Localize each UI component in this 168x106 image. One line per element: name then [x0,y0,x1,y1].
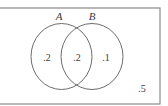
set-b-label: B [89,10,96,22]
region-b-only-value: .1 [102,52,110,63]
venn-diagram: A B .2 .2 .1 .5 [0,0,168,106]
region-outside-value: .5 [138,83,146,94]
region-a-only-value: .2 [43,52,51,63]
region-a-and-b-value: .2 [73,52,81,63]
set-a-label: A [55,10,63,22]
